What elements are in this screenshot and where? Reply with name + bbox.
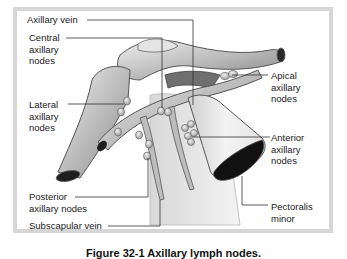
label-subscapular-vein: Subscapular vein (29, 220, 102, 232)
label-pectoralis-minor: Pectoralis minor (271, 201, 313, 224)
figure-caption: Figure 32-1 Axillary lymph nodes. (0, 247, 347, 259)
caption-number: Figure 32-1 (86, 247, 145, 259)
label-axillary-vein: Axillary vein (27, 14, 78, 26)
leader-pectoralis-minor (242, 176, 268, 205)
caption-text: Axillary lymph nodes. (147, 247, 261, 259)
label-central-axillary-nodes: Central axillary nodes (29, 32, 60, 67)
label-anterior-axillary-nodes: Anterior axillary nodes (271, 132, 304, 167)
label-lateral-axillary-nodes: Lateral axillary nodes (29, 99, 59, 134)
clavicle (118, 39, 285, 88)
label-posterior-axillary-nodes: Posterior axillary nodes (29, 191, 87, 214)
label-apical-axillary-nodes: Apical axillary nodes (271, 70, 301, 105)
